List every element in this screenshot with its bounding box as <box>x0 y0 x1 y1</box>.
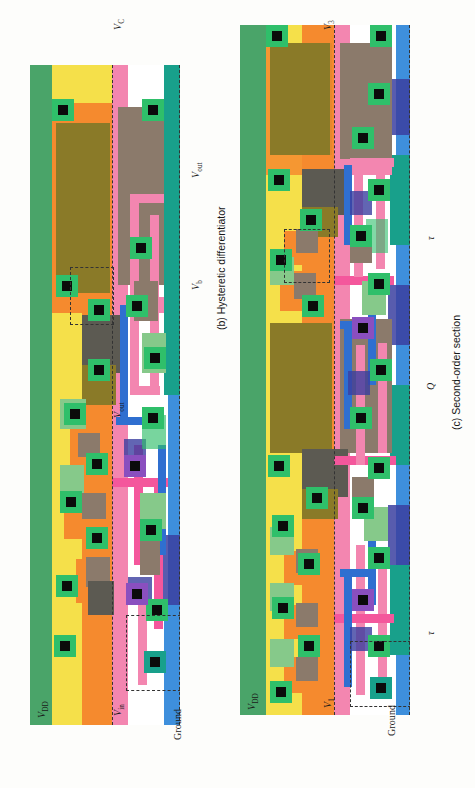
contact <box>374 463 384 473</box>
panel-b-label-vdd: VDD <box>36 701 50 718</box>
panel-c-label-vdd: VDD <box>246 693 260 710</box>
contact <box>304 641 314 651</box>
annotation-box-1 <box>350 641 410 707</box>
contact <box>92 459 102 469</box>
indigo-block-2 <box>348 371 370 395</box>
contact <box>132 301 142 311</box>
figure-page: VC VDD Vin Ground Vout Vb (b) Hysteretic… <box>0 0 475 788</box>
annotation-line-ground <box>409 25 410 715</box>
panel-c-label-v3: V3 <box>322 20 336 30</box>
annotation-box-1 <box>70 267 114 325</box>
pink-route-v4 <box>350 158 394 167</box>
brown-island-2 <box>140 541 160 575</box>
contact <box>374 185 384 195</box>
contact <box>356 231 366 241</box>
annotation-box-2 <box>126 615 180 691</box>
contact <box>374 279 384 289</box>
contact <box>152 605 162 615</box>
grey-patch-left <box>88 581 114 615</box>
contact <box>94 365 104 375</box>
contact <box>136 243 146 253</box>
panel-c <box>240 25 410 715</box>
yellow-notch-right <box>52 65 112 103</box>
contact <box>146 525 156 535</box>
pmos-poly-olive-b2 <box>270 43 330 155</box>
hotpink-route-v1 <box>334 614 394 623</box>
panel-a-label-vout: Vout <box>112 402 126 418</box>
contact <box>312 493 322 503</box>
ground-indigo-seg-1 <box>388 505 410 565</box>
brown-patch-1 <box>296 657 318 681</box>
contact <box>60 641 70 651</box>
pink-route-v1 <box>130 386 160 395</box>
pmos-poly-olive-a <box>270 323 332 453</box>
lightgreen-patch-2 <box>60 465 84 493</box>
contact <box>304 559 314 569</box>
vdd-rail-green <box>240 25 266 715</box>
ground-teal-segment <box>164 65 180 395</box>
contact <box>374 89 384 99</box>
contact <box>70 409 80 419</box>
panel-b-label-ground: Ground <box>172 709 183 740</box>
vdd-rail-green <box>30 65 52 725</box>
contact <box>132 589 142 599</box>
panel-b-label-vb: Vb <box>190 280 204 290</box>
contact <box>130 461 140 471</box>
ground-teal-seg-2 <box>390 385 410 465</box>
panel-c-label-ground: Ground <box>386 705 397 736</box>
annotation-line-v3 <box>334 25 335 715</box>
panel-c-label-tau-bottom: τ <box>425 631 436 635</box>
contact <box>148 105 158 115</box>
contact <box>62 581 72 591</box>
contact <box>356 413 366 423</box>
panel-c-label-v1: V1 <box>322 698 336 708</box>
contact <box>358 133 368 143</box>
contact <box>358 323 368 333</box>
contact <box>308 301 318 311</box>
contact <box>92 533 102 543</box>
panel-b-label-vin: Vin <box>112 704 126 716</box>
contact <box>148 413 158 423</box>
ground-teal-seg-3 <box>390 155 410 245</box>
contact <box>358 503 368 513</box>
contact <box>58 105 68 115</box>
panel-b-caption: (b) Hysteretic differentiator <box>215 206 227 330</box>
pink-route-h3 <box>356 345 365 465</box>
panel-c-label-q: Q <box>425 383 436 390</box>
contact <box>274 461 284 471</box>
contact <box>274 175 284 185</box>
contact <box>358 595 368 605</box>
annotation-line-vc <box>112 65 113 725</box>
brown-patch-2 <box>296 603 318 627</box>
contact <box>278 603 288 613</box>
contact <box>376 31 386 41</box>
pink-route-v2 <box>130 194 164 203</box>
brown-patch-2 <box>82 493 106 519</box>
annotation-line-ground <box>179 65 180 725</box>
blue-route-v1 <box>340 569 376 577</box>
contact <box>374 553 384 563</box>
panel-c-layout <box>240 25 410 715</box>
panel-b-layout <box>30 65 180 725</box>
contact <box>278 521 288 531</box>
contact <box>306 215 316 225</box>
panel-c-caption: (c) Second-order section <box>450 315 462 430</box>
panel-b-label-vc: VC <box>112 19 126 30</box>
panel-b <box>30 65 180 725</box>
contact <box>272 31 282 41</box>
annotation-box-2 <box>284 229 330 283</box>
contact <box>376 365 386 375</box>
lightgreen-patch-1 <box>270 639 294 667</box>
panel-c-label-tau-top: τ <box>425 236 436 240</box>
contact <box>66 497 76 507</box>
contact <box>276 687 286 697</box>
contact <box>150 353 160 363</box>
panel-b-label-vout: Vout <box>190 162 204 178</box>
